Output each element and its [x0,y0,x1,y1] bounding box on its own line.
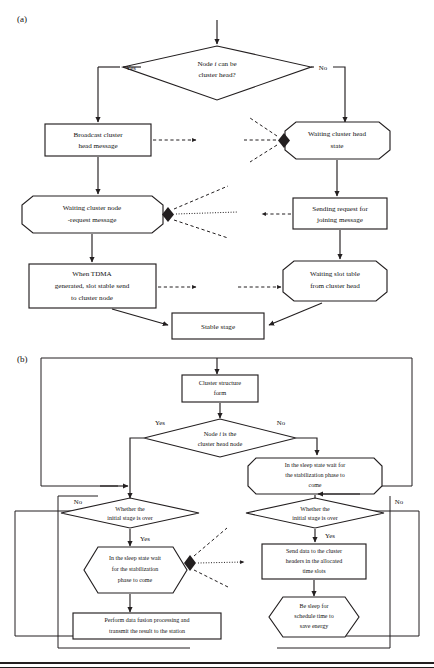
edge-label-no-a: No [319,64,328,71]
panel-a-label: (a) [17,14,27,24]
process-send-data-line1: Send data to the cluster [286,548,342,554]
process-broadcast-line2: head message [78,142,117,150]
bottom-rule-thick [0,662,434,664]
edge-label-no-b: No [277,419,286,426]
process-sending-line1: Sending request for [312,205,368,213]
panel-b-flowchart: (b) Cluster structure form Node i is the… [0,346,434,666]
edge-tdma-to-stable [112,309,168,325]
state-waiting-cluster-head-state [285,122,390,159]
state-waiting-cluster-node-request [22,196,163,233]
state-waiting-ch-line1: Waiting cluster head [308,130,367,138]
state-be-sleep-line1: Be sleep for [300,603,329,609]
process-tdma-line3: to cluster node [71,294,113,302]
state-be-sleep-line2: schedule time to [294,613,333,619]
state-sleep-right-line3: come [309,482,322,488]
fan-line-a-top-down [250,145,277,162]
state-waiting-node-line2: -request message [68,216,117,224]
state-waiting-node-line1: Waiting cluster node [63,204,122,212]
process-cluster-form-line2: form [214,389,226,396]
state-be-sleep-line3: save energy [300,623,328,629]
process-stable-stage-label: Stable stage [201,323,235,331]
fan-line-b-mid [198,562,244,563]
figure-page: (a) Node i can be cluster head? Yes No B… [0,0,434,668]
decision-whether-left-line1: Whether the [115,506,145,512]
fan-line-b-up [194,528,227,556]
state-slot-table-line1: Waiting slot table [310,270,360,278]
decision-whether-initial-right [246,498,384,528]
fan-line-a-top-up [250,118,277,136]
edge-label-yes-b: Yes [155,419,165,426]
fan-line-b-down [194,570,230,588]
state-sleep-right-line1: In the sleep state wait for [285,462,345,468]
decision-node-can-be-cluster-head-line1: Node i can be [197,60,236,68]
edge-slot-table-to-stable [269,303,322,325]
state-waiting-ch-line2: state [331,142,344,150]
process-send-data-line3: time slots [302,568,326,574]
state-sleep-left-line3: phase to come [118,577,153,583]
state-sleep-left-line2: for the stabilization [112,566,159,572]
edge-label-yes-left-b: Yes [140,535,150,542]
process-broadcast-cluster-head-message [45,124,151,156]
process-cluster-form-line1: Cluster structure [199,379,242,386]
decision-node-is-cluster-head [144,419,296,457]
state-sleep-right-line2: the stabilization phase to [285,472,344,478]
decision-whether-right-line2: initial stage is over [292,515,338,521]
fan-line-a-mid-down [174,220,228,238]
process-tdma-line2: generated, slot stable send [55,282,130,290]
edge-yes-b-down [130,438,144,498]
state-sleep-left-line1: In the sleep state wait [109,555,161,561]
connector-diamond-a-mid [162,207,174,222]
process-fusion-line1: Perform data fusion processing and [105,617,190,623]
process-sending-request-joining [293,198,387,229]
edge-no-b-down [296,438,317,455]
process-sending-line2: joining message [316,216,363,224]
panel-b-label: (b) [17,354,28,364]
state-slot-table-line2: from cluster head [310,282,360,290]
decision-is-head-line2: cluster head node [198,440,243,447]
decision-whether-right-line1: Whether the [300,506,330,512]
fan-line-a-mid-dot [176,212,238,214]
edge-no-down-a [333,67,345,122]
process-tdma-line1: When TDMA [72,270,112,278]
process-fusion-line2: transmit the result to the station [109,628,185,634]
decision-is-head-line1: Node i is the [204,430,237,437]
process-send-data-line2: headers in the allocated [286,558,342,564]
panel-a-flowchart: (a) Node i can be cluster head? Yes No B… [0,0,434,345]
fan-line-a-mid-up [174,186,228,209]
edge-label-no-left-b: No [74,498,83,505]
process-broadcast-line1: Broadcast cluster [73,131,123,139]
decision-node-can-be-cluster-head-line2: cluster head? [198,71,235,79]
decision-whether-left-line2: initial stage is over [107,515,153,521]
edge-label-no-right-b: No [395,498,404,505]
edge-label-yes-right-b: Yes [325,532,335,539]
